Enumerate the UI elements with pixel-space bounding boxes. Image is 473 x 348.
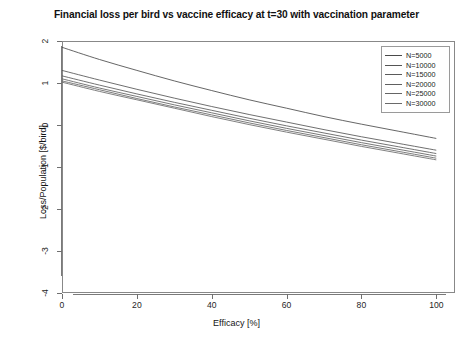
x-tick-label: 20 — [122, 300, 152, 310]
x-tick-label: 80 — [346, 300, 376, 310]
legend-line-swatch — [385, 55, 402, 56]
x-tick-label: 0 — [47, 300, 77, 310]
legend-item-label: N=30000 — [406, 99, 435, 108]
y-tick-mark — [57, 41, 62, 42]
y-tick-mark — [57, 209, 62, 210]
x-tick-mark — [361, 294, 362, 299]
legend-item-label: N=25000 — [406, 89, 435, 98]
legend-item: N=30000 — [385, 99, 446, 108]
legend-line-swatch — [385, 93, 402, 94]
legend-item: N=5000 — [385, 51, 446, 60]
legend-item: N=20000 — [385, 80, 446, 89]
legend-line-swatch — [385, 65, 402, 66]
x-axis-title: Efficacy [%] — [0, 318, 473, 328]
x-tick-label: 60 — [272, 300, 302, 310]
y-tick-mark — [57, 83, 62, 84]
legend-item-label: N=15000 — [406, 70, 435, 79]
x-tick-mark — [436, 294, 437, 299]
x-tick-label: 40 — [197, 300, 227, 310]
y-tick-label-text: 2 — [40, 39, 50, 44]
y-tick-mark — [57, 167, 62, 168]
legend-item-label: N=20000 — [406, 80, 435, 89]
y-tick-mark — [57, 251, 62, 252]
x-tick-label: 100 — [421, 300, 451, 310]
chart-title: Financial loss per bird vs vaccine effic… — [0, 9, 473, 20]
chart-legend: N=5000N=10000N=15000N=20000N=25000N=3000… — [381, 46, 450, 113]
x-tick-mark — [212, 294, 213, 299]
x-tick-mark — [137, 294, 138, 299]
chart-container: Financial loss per bird vs vaccine effic… — [0, 0, 473, 348]
x-tick-mark — [287, 294, 288, 299]
legend-item: N=25000 — [385, 89, 446, 98]
legend-line-swatch — [385, 74, 402, 75]
x-axis-line — [73, 294, 446, 295]
y-axis-line — [61, 46, 62, 276]
legend-item: N=10000 — [385, 61, 446, 70]
y-tick-label: 2 — [36, 36, 54, 46]
legend-item: N=15000 — [385, 70, 446, 79]
y-tick-mark — [57, 125, 62, 126]
legend-line-swatch — [385, 103, 402, 104]
legend-item-label: N=10000 — [406, 61, 435, 70]
legend-item-label: N=5000 — [406, 51, 431, 60]
legend-line-swatch — [385, 84, 402, 85]
y-axis-title: Loss/Population [$/bird] — [38, 46, 48, 298]
x-tick-mark — [62, 294, 63, 299]
